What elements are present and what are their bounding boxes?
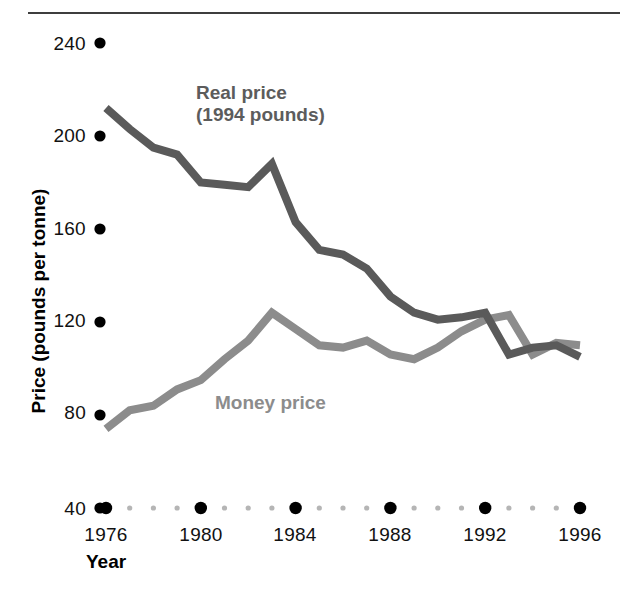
x-axis-tick-dots — [100, 502, 586, 514]
y-tick-dot-200 — [94, 130, 105, 141]
x-tick-dot-major-1980 — [195, 502, 207, 514]
x-tick-dot-major-1988 — [384, 502, 396, 514]
series-annotation-money-price: Money price — [215, 392, 326, 414]
x-tick-label-1980: 1980 — [164, 524, 238, 546]
x-tick-dot-major-1976 — [100, 502, 112, 514]
x-tick-dot-minor-1981 — [222, 505, 227, 510]
x-tick-dot-minor-1978 — [151, 505, 156, 510]
x-axis-title: Year — [86, 551, 126, 573]
y-tick-dot-160 — [94, 223, 105, 234]
y-axis-title: Price (pounds per tonne) — [28, 166, 50, 436]
x-tick-label-1988: 1988 — [353, 524, 427, 546]
y-tick-dot-120 — [94, 316, 105, 327]
x-tick-dot-minor-1987 — [364, 505, 369, 510]
x-tick-dot-minor-1995 — [554, 505, 559, 510]
series-layer — [106, 108, 580, 429]
x-tick-dot-minor-1979 — [175, 505, 180, 510]
y-tick-dot-80 — [94, 409, 105, 420]
x-tick-dot-minor-1982 — [246, 505, 251, 510]
x-tick-label-1992: 1992 — [448, 524, 522, 546]
y-tick-label-200: 200 — [36, 125, 86, 147]
x-tick-dot-major-1984 — [289, 502, 301, 514]
x-tick-dot-minor-1993 — [506, 505, 511, 510]
x-tick-label-1976: 1976 — [69, 524, 143, 546]
x-tick-dot-minor-1986 — [340, 505, 345, 510]
x-tick-label-1996: 1996 — [543, 524, 617, 546]
x-tick-dot-major-1992 — [479, 502, 491, 514]
series-annotation-real-price-line1: Real price — [196, 82, 325, 104]
series-line-money-price — [106, 313, 580, 429]
x-tick-dot-minor-1990 — [435, 505, 440, 510]
x-tick-dot-minor-1985 — [317, 505, 322, 510]
y-axis-tick-dots — [94, 37, 105, 513]
series-annotation-real-price: Real price (1994 pounds) — [196, 82, 325, 127]
x-tick-label-1984: 1984 — [258, 524, 332, 546]
series-annotation-real-price-line2: (1994 pounds) — [196, 104, 325, 126]
x-tick-dot-minor-1991 — [459, 505, 464, 510]
chart-figure: 240 200 160 120 80 40 1976 1980 1984 198… — [0, 0, 634, 602]
x-tick-dot-minor-1989 — [412, 505, 417, 510]
x-tick-dot-minor-1994 — [530, 505, 535, 510]
x-tick-dot-minor-1983 — [269, 505, 274, 510]
y-tick-label-40: 40 — [36, 498, 86, 520]
y-tick-label-240: 240 — [36, 33, 86, 55]
x-tick-dot-minor-1977 — [127, 505, 132, 510]
x-tick-dot-major-1996 — [574, 502, 586, 514]
y-tick-dot-240 — [94, 37, 105, 48]
